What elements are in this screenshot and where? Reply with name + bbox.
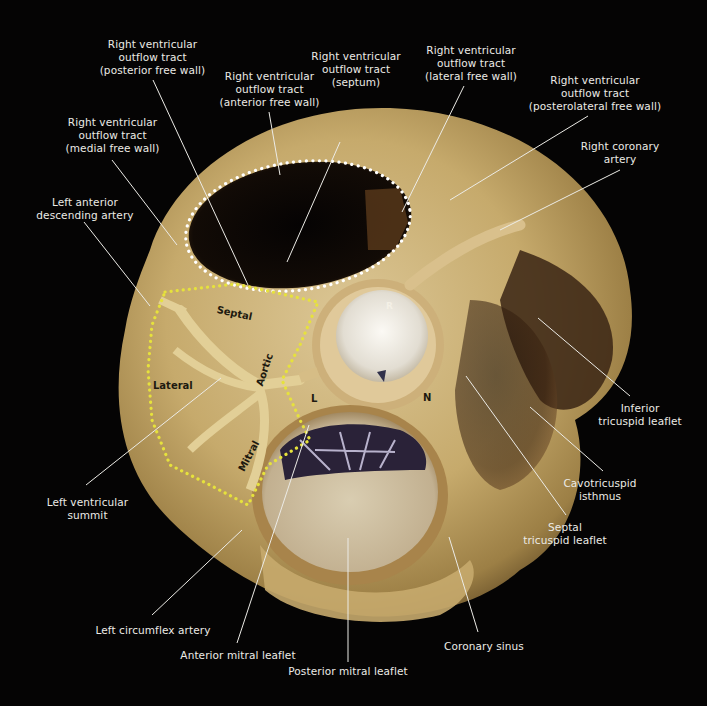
label-rvot-posterolateral: Right ventricular outflow tract (postero…	[520, 74, 670, 113]
leader-line-lad	[84, 222, 150, 306]
label-septal-tricuspid-leaflet: Septal tricuspid leaflet	[515, 521, 615, 547]
label-coronary-sinus: Coronary sinus	[434, 640, 534, 653]
anatomical-figure: Right ventricular outflow tract (posteri…	[0, 0, 707, 706]
label-left-circumflex-artery: Left circumflex artery	[88, 624, 218, 637]
label-inferior-tricuspid-leaflet: Inferior tricuspid leaflet	[590, 402, 690, 428]
aortic-valve	[336, 290, 428, 382]
label-cavotricuspid-isthmus: Cavotricuspid isthmus	[555, 477, 645, 503]
label-right-coronary-artery: Right coronary artery	[570, 140, 670, 166]
label-lad: Left anterior descending artery	[30, 196, 140, 222]
label-rvot-medial: Right ventricular outflow tract (medial …	[55, 116, 170, 155]
region-label-lateral: Lateral	[153, 380, 193, 391]
label-posterior-mitral-leaflet: Posterior mitral leaflet	[278, 665, 418, 678]
label-rvot-posterior: Right ventricular outflow tract (posteri…	[95, 38, 210, 77]
region-label-cusp-l: L	[311, 393, 317, 404]
region-label-cusp-r: R	[386, 301, 393, 311]
label-rvot-septum: Right ventricular outflow tract (septum)	[306, 50, 406, 89]
label-rvot-lateral: Right ventricular outflow tract (lateral…	[416, 44, 526, 83]
label-anterior-mitral-leaflet: Anterior mitral leaflet	[173, 649, 303, 662]
region-label-cusp-n: N	[423, 392, 431, 403]
label-lv-summit: Left ventricular summit	[40, 496, 135, 522]
